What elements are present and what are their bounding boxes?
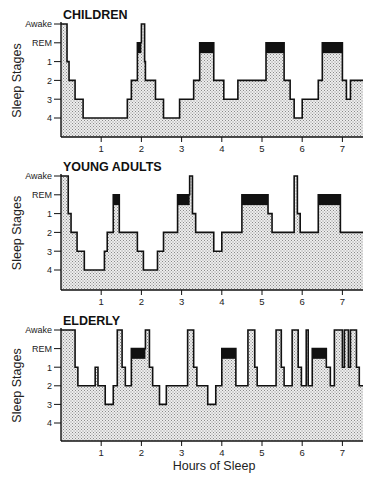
y-tick-label: 4 bbox=[47, 113, 52, 123]
x-tick-label: 4 bbox=[219, 143, 224, 154]
rem-block bbox=[318, 195, 340, 205]
panel-title: CHILDREN bbox=[63, 8, 128, 22]
x-tick-label: 3 bbox=[179, 447, 184, 458]
x-tick-label: 5 bbox=[259, 296, 264, 307]
y-tick-label: Awake bbox=[25, 325, 52, 335]
y-tick-label: Awake bbox=[25, 171, 52, 181]
y-tick-label: 1 bbox=[47, 209, 52, 219]
x-tick-label: 7 bbox=[340, 143, 345, 154]
rem-block bbox=[266, 43, 284, 53]
panel-elderly: ELDERLYSleep StagesAwakeREM12341234567 bbox=[10, 314, 363, 458]
rem-block bbox=[222, 349, 236, 359]
y-tick-label: 1 bbox=[47, 57, 52, 67]
panel-title: YOUNG ADULTS bbox=[63, 160, 162, 174]
rem-block bbox=[312, 349, 326, 359]
x-tick-label: 6 bbox=[300, 447, 305, 458]
panel-young-adults: YOUNG ADULTSSleep StagesAwakeREM12341234… bbox=[10, 160, 363, 307]
sleep-hypnogram-figure: CHILDRENSleep StagesAwakeREM12341234567Y… bbox=[0, 0, 376, 487]
rem-block bbox=[322, 43, 342, 53]
y-tick-label: 3 bbox=[47, 95, 52, 105]
x-tick-label: 4 bbox=[219, 447, 224, 458]
x-tick-label: 2 bbox=[139, 143, 144, 154]
sleep-area bbox=[61, 330, 363, 441]
x-tick-label: 7 bbox=[340, 447, 345, 458]
x-tick-label: 5 bbox=[259, 143, 264, 154]
y-tick-label: Awake bbox=[25, 19, 52, 29]
x-tick-label: 3 bbox=[179, 143, 184, 154]
y-tick-label: 2 bbox=[47, 381, 52, 391]
rem-block bbox=[131, 349, 145, 359]
y-tick-label: 1 bbox=[47, 363, 52, 373]
y-tick-label: 3 bbox=[47, 247, 52, 257]
y-tick-label: REM bbox=[32, 38, 52, 48]
y-tick-label: REM bbox=[32, 344, 52, 354]
x-tick-label: 1 bbox=[99, 296, 104, 307]
x-axis-label: Hours of Sleep bbox=[173, 459, 256, 473]
x-tick-label: 6 bbox=[300, 143, 305, 154]
x-tick-label: 1 bbox=[99, 143, 104, 154]
x-tick-label: 4 bbox=[219, 296, 224, 307]
y-tick-label: REM bbox=[32, 190, 52, 200]
x-tick-label: 6 bbox=[300, 296, 305, 307]
y-axis-label: Sleep Stages bbox=[10, 348, 24, 422]
x-tick-label: 7 bbox=[340, 296, 345, 307]
rem-block bbox=[200, 43, 214, 53]
rem-block bbox=[178, 195, 190, 205]
rem-block bbox=[113, 195, 119, 205]
y-axis-label: Sleep Stages bbox=[10, 196, 24, 270]
y-tick-label: 4 bbox=[47, 265, 52, 275]
y-tick-label: 2 bbox=[47, 228, 52, 238]
y-tick-label: 4 bbox=[47, 418, 52, 428]
x-tick-label: 3 bbox=[179, 296, 184, 307]
x-tick-label: 5 bbox=[259, 447, 264, 458]
x-tick-label: 1 bbox=[99, 447, 104, 458]
y-axis-label: Sleep Stages bbox=[10, 43, 24, 117]
rem-block bbox=[242, 195, 268, 205]
y-tick-label: 2 bbox=[47, 76, 52, 86]
panel-title: ELDERLY bbox=[63, 314, 121, 328]
x-tick-label: 2 bbox=[139, 447, 144, 458]
y-tick-label: 3 bbox=[47, 400, 52, 410]
x-tick-label: 2 bbox=[139, 296, 144, 307]
panel-children: CHILDRENSleep StagesAwakeREM12341234567 bbox=[10, 8, 363, 154]
